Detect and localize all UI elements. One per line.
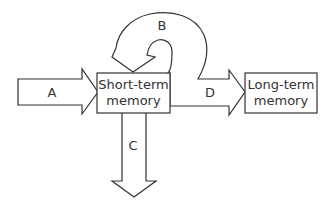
arrow-d-label: D	[205, 85, 215, 100]
ltm-label-line2: memory	[254, 93, 309, 108]
arrow-c	[112, 112, 156, 197]
arrow-a-label: A	[48, 85, 57, 100]
stm-label-line2: memory	[106, 93, 161, 108]
ltm-label-line1: Long-term	[247, 77, 314, 92]
arrow-b-label: B	[158, 18, 167, 33]
stm-label-line1: Short-term	[98, 77, 168, 92]
arrow-a	[18, 69, 98, 114]
arrow-c-label: C	[128, 138, 137, 153]
memory-model-diagram: Short-term memory Long-term memory A B C…	[0, 0, 336, 209]
